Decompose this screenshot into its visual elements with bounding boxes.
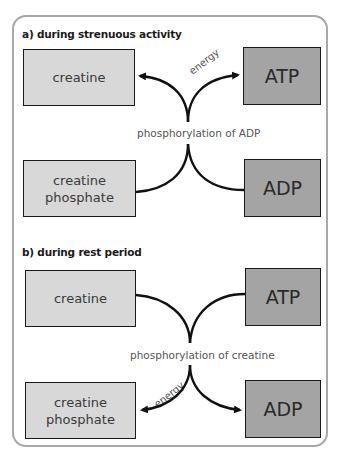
line-from-atp-b [190, 294, 245, 343]
line-from-creatine-phosphate-a [136, 144, 188, 192]
arrow-to-creatine-phosphate-b [142, 365, 190, 410]
arrow-to-creatine-a [140, 76, 188, 122]
arrow-to-atp-a [188, 75, 238, 122]
line-from-creatine-b [136, 295, 190, 343]
reaction-arrows [0, 0, 338, 461]
arrow-to-adp-b [190, 365, 240, 410]
line-from-adp-a [188, 144, 244, 190]
